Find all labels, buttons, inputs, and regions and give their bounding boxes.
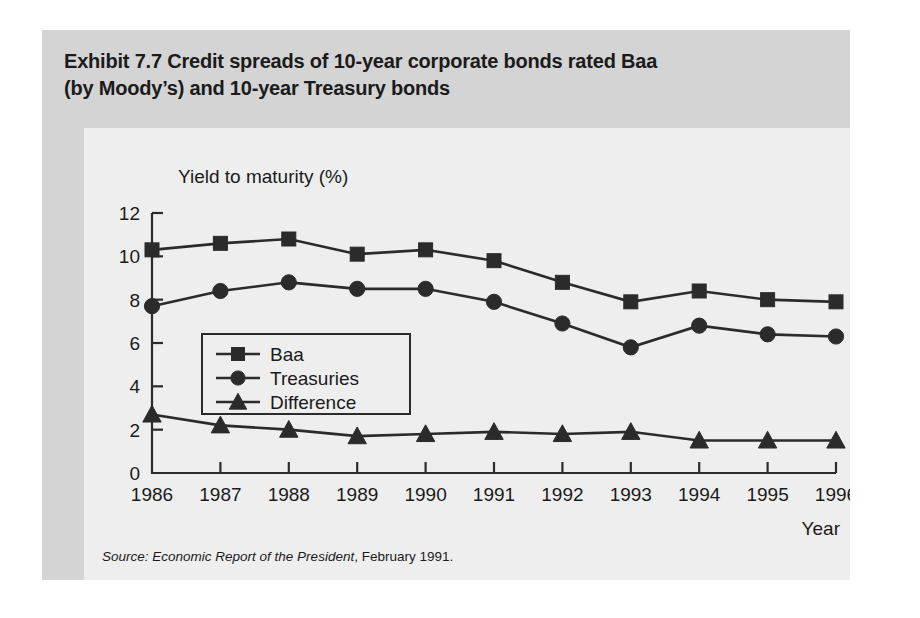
source-date: , February 1991.	[354, 549, 453, 564]
x-tick-label: 1993	[610, 484, 652, 505]
legend-label-baa: Baa	[270, 344, 304, 365]
y-tick-label: 6	[129, 333, 140, 354]
series-line-baa	[152, 239, 836, 302]
data-point-circle	[555, 316, 570, 331]
plot-area: Yield to maturity (%)0246810121986198719…	[84, 128, 850, 580]
data-point-circle	[623, 340, 638, 355]
data-point-circle	[486, 294, 501, 309]
data-point-square	[761, 293, 775, 307]
x-axis-title: Year	[802, 518, 841, 539]
x-tick-label: 1989	[336, 484, 378, 505]
data-point-square	[692, 284, 706, 298]
chart-panel: Yield to maturity (%)0246810121986198719…	[84, 128, 850, 580]
data-point-square	[419, 243, 433, 257]
figure-panel: Exhibit 7.7 Credit spreads of 10-year co…	[42, 30, 850, 580]
x-tick-label: 1994	[678, 484, 721, 505]
x-tick-label: 1996	[815, 484, 850, 505]
data-point-circle	[828, 329, 843, 344]
data-point-circle	[350, 281, 365, 296]
data-point-square	[213, 236, 227, 250]
figure-title-line-2: (by Moody’s) and 10-year Treasury bonds	[64, 77, 450, 99]
x-tick-label: 1988	[268, 484, 310, 505]
data-point-square	[145, 243, 159, 257]
x-tick-label: 1987	[199, 484, 241, 505]
data-point-triangle	[143, 405, 161, 422]
data-point-square	[624, 295, 638, 309]
figure-title-line-1: Exhibit 7.7 Credit spreads of 10-year co…	[64, 50, 657, 72]
source-publication: Economic Report of the President	[152, 549, 354, 564]
y-tick-label: 8	[129, 290, 140, 311]
x-tick-label: 1995	[746, 484, 788, 505]
y-tick-label: 12	[119, 203, 140, 224]
data-point-circle	[213, 283, 228, 298]
data-point-circle	[692, 318, 707, 333]
data-point-square	[555, 275, 569, 289]
x-tick-label: 1992	[541, 484, 583, 505]
figure-title: Exhibit 7.7 Credit spreads of 10-year co…	[64, 48, 824, 101]
x-tick-label: 1986	[131, 484, 173, 505]
data-point-square	[282, 232, 296, 246]
y-tick-label: 2	[129, 420, 140, 441]
data-point-circle	[231, 371, 245, 385]
data-point-circle	[144, 299, 159, 314]
x-tick-label: 1991	[473, 484, 515, 505]
source-note: Source: Economic Report of the President…	[102, 549, 453, 564]
data-point-circle	[281, 275, 296, 290]
source-label: Source	[102, 549, 145, 564]
data-point-square	[829, 295, 843, 309]
data-point-square	[350, 247, 364, 261]
legend-label-treasuries: Treasuries	[270, 368, 359, 389]
legend-label-difference: Difference	[270, 392, 356, 413]
y-tick-label: 0	[129, 463, 140, 484]
data-point-circle	[760, 327, 775, 342]
y-tick-label: 4	[129, 376, 140, 397]
line-chart: Yield to maturity (%)0246810121986198719…	[84, 128, 850, 580]
x-tick-label: 1990	[404, 484, 446, 505]
y-tick-label: 10	[119, 246, 140, 267]
data-point-circle	[418, 281, 433, 296]
data-point-square	[487, 254, 501, 268]
data-point-square	[232, 348, 245, 361]
y-axis-title: Yield to maturity (%)	[178, 166, 348, 187]
